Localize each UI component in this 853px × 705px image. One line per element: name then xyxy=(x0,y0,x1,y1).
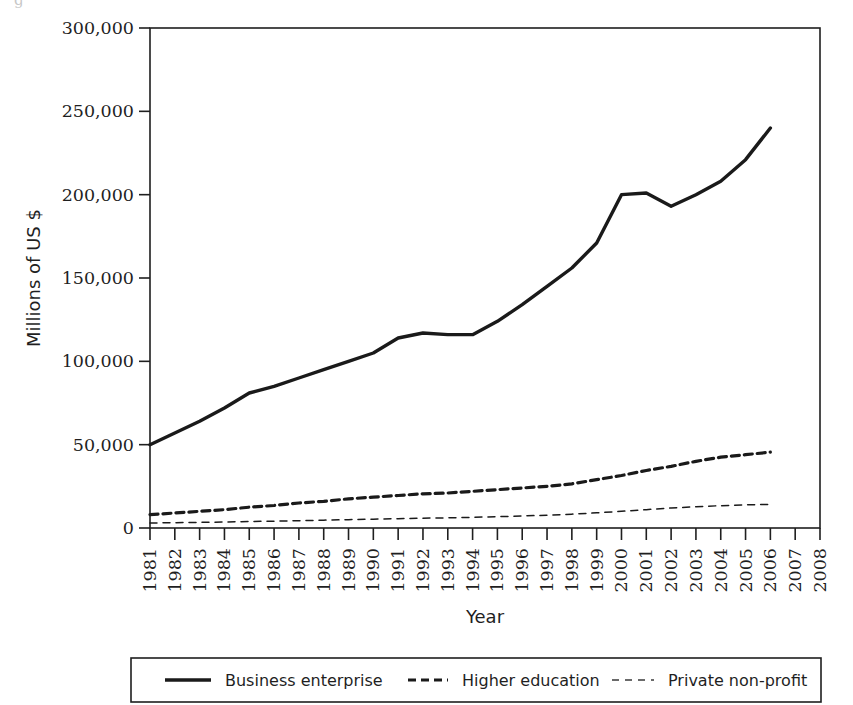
x-tick-label: 1982 xyxy=(165,548,185,593)
x-axis-ticks xyxy=(150,528,820,540)
y-axis-title: Millions of US $ xyxy=(23,209,44,347)
x-tick-label: 1988 xyxy=(314,548,334,593)
x-tick-label: 1994 xyxy=(463,548,483,593)
x-tick-label: 2007 xyxy=(785,548,805,593)
x-tick-label: 1997 xyxy=(537,548,557,593)
x-tick-label: 2004 xyxy=(711,548,731,593)
x-axis-title: Year xyxy=(465,606,505,627)
x-tick-label: 1992 xyxy=(413,548,433,593)
y-axis-tick-labels: 050,000100,000150,000200,000250,000300,0… xyxy=(62,18,134,538)
y-tick-label: 0 xyxy=(123,518,134,538)
x-tick-label: 1984 xyxy=(214,548,234,593)
legend-label-higher-education: Higher education xyxy=(462,671,600,690)
y-tick-label: 100,000 xyxy=(62,351,134,371)
x-tick-label: 1985 xyxy=(239,548,259,593)
x-tick-label: 1995 xyxy=(487,548,507,593)
x-tick-label: 2002 xyxy=(661,548,681,593)
x-tick-label: 1996 xyxy=(512,548,532,593)
x-tick-label: 1981 xyxy=(140,548,160,593)
x-tick-label: 2000 xyxy=(611,548,631,593)
x-tick-label: 2008 xyxy=(810,548,830,593)
legend-entries: Business enterpriseHigher educationPriva… xyxy=(165,671,807,690)
y-tick-label: 150,000 xyxy=(62,268,134,288)
plot-frame xyxy=(150,28,820,528)
x-tick-label: 1993 xyxy=(438,548,458,593)
x-tick-label: 1990 xyxy=(363,548,383,593)
line-chart: 050,000100,000150,000200,000250,000300,0… xyxy=(0,0,853,705)
x-tick-label: 2005 xyxy=(736,548,756,593)
series-line-higher-education xyxy=(150,452,770,514)
y-tick-label: 250,000 xyxy=(62,101,134,121)
x-tick-label: 1998 xyxy=(562,548,582,593)
x-tick-label: 1999 xyxy=(587,548,607,593)
y-axis-ticks xyxy=(139,28,150,528)
y-tick-label: 200,000 xyxy=(62,185,134,205)
x-tick-label: 1986 xyxy=(264,548,284,593)
x-axis-tick-labels: 1981198219831984198519861987198819891990… xyxy=(140,548,830,593)
figure-root: g 050,000100,000150,000200,000250,000300… xyxy=(0,0,853,705)
x-tick-label: 1987 xyxy=(289,548,309,593)
x-tick-label: 1991 xyxy=(388,548,408,593)
x-tick-label: 2001 xyxy=(636,548,656,593)
legend-label-private-non-profit: Private non-profit xyxy=(668,671,807,690)
x-tick-label: 1989 xyxy=(339,548,359,593)
y-tick-label: 300,000 xyxy=(62,18,134,38)
y-tick-label: 50,000 xyxy=(73,435,134,455)
x-tick-label: 1983 xyxy=(190,548,210,593)
data-series-group xyxy=(150,128,770,523)
series-line-business-enterprise xyxy=(150,128,770,445)
x-tick-label: 2003 xyxy=(686,548,706,593)
x-tick-label: 2006 xyxy=(760,548,780,593)
legend-label-business-enterprise: Business enterprise xyxy=(225,671,383,690)
